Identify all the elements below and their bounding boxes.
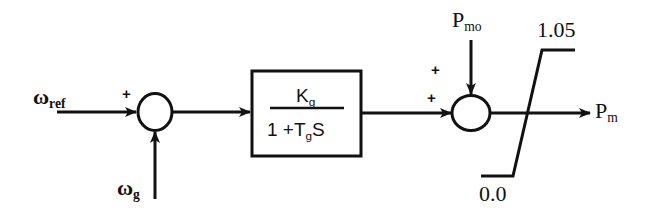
omega-ref-symbol: ω bbox=[33, 84, 49, 109]
numerator-gain-symbol: K bbox=[296, 85, 309, 106]
omega-g-label: ωg bbox=[117, 177, 140, 199]
p-m-output-label: Pm bbox=[595, 100, 618, 122]
p-mo-symbol: P bbox=[452, 7, 464, 32]
summing-junction-1 bbox=[138, 94, 172, 131]
limiter-lower-label: 0.0 bbox=[479, 183, 507, 205]
p-mo-subscript: mo bbox=[464, 19, 481, 34]
summer1-plus-sign: + bbox=[122, 86, 131, 101]
denominator-time-constant-subscript: g bbox=[306, 129, 313, 142]
denominator-prefix: 1 +T bbox=[267, 119, 306, 140]
transfer-function-block bbox=[252, 71, 361, 156]
summer2-plus-sign-top: + bbox=[431, 62, 440, 77]
omega-ref-label: ωref bbox=[33, 86, 65, 108]
governor-block-diagram: ωref ωg + Kg 1 +TgS + + Pmo 1.05 0.0 Pm bbox=[0, 0, 654, 217]
summing-junction-2 bbox=[452, 96, 490, 131]
omega-ref-subscript: ref bbox=[49, 96, 65, 111]
limiter-upper-label: 1.05 bbox=[537, 19, 576, 41]
summer2-plus-sign-left: + bbox=[427, 90, 436, 105]
p-m-subscript: m bbox=[607, 110, 618, 125]
transfer-numerator: Kg bbox=[296, 86, 315, 105]
omega-g-subscript: g bbox=[133, 187, 140, 202]
denominator-laplace-s: S bbox=[312, 119, 325, 140]
omega-g-symbol: ω bbox=[117, 175, 133, 200]
p-mo-label: Pmo bbox=[452, 9, 482, 31]
p-m-symbol: P bbox=[595, 98, 607, 123]
numerator-gain-subscript: g bbox=[309, 95, 316, 108]
transfer-denominator: 1 +TgS bbox=[267, 120, 325, 139]
